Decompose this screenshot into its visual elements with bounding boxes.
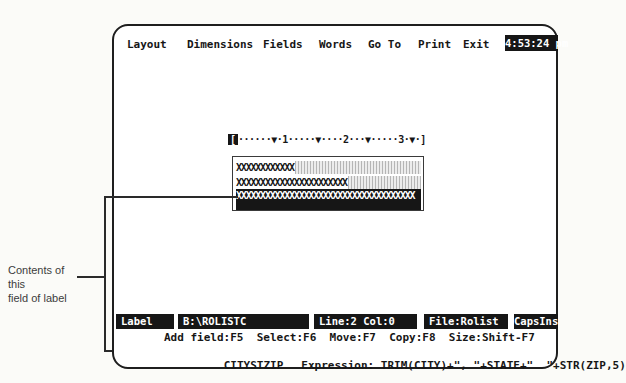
status-keyboard-indicators: CapsIns bbox=[514, 314, 558, 329]
function-key-help-line: Add field:F5 Select:F6 Move:F7 Copy:F8 S… bbox=[164, 331, 535, 344]
ruler-left-margin-marker[interactable]: [ bbox=[228, 134, 238, 145]
annotation-pointer-line bbox=[77, 276, 105, 278]
ruler-tab-stops[interactable]: ······▼·1·····▼····2···▼·····3·▼·] bbox=[238, 134, 426, 145]
field-expression: Expression: TRIM(CITY)+", "+STATE+" "+ST… bbox=[301, 359, 626, 372]
label-field-row-3-selected[interactable]: XXXXXXXXXXXXXXXXXXXXXXXXXXXXXXXXXXXXX bbox=[236, 189, 421, 210]
field-expression-line: CITYSTZIPExpression: TRIM(CITY)+", "+STA… bbox=[184, 346, 626, 383]
menu-item-print[interactable]: Print bbox=[418, 38, 451, 51]
callout-vertical-line bbox=[104, 196, 106, 352]
status-cursor-position: Line:2 Col:0 bbox=[314, 314, 417, 329]
field-extent-hatch-2 bbox=[348, 176, 421, 189]
menu-item-exit[interactable]: Exit bbox=[463, 38, 490, 51]
field-template-3-selected[interactable]: XXXXXXXXXXXXXXXXXXXXXXXXXXXXXXXXXXXXX bbox=[236, 189, 414, 202]
annotation-line2: field of label bbox=[8, 291, 80, 305]
label-design-box: XXXXXXXXXXXX XXXXXXXXXXXXXXXXXXXXXXX XXX… bbox=[232, 156, 424, 211]
field-name: CITYSTZIP bbox=[224, 359, 284, 372]
status-data-file: File:Rolist bbox=[424, 314, 508, 329]
menu-item-goto[interactable]: Go To bbox=[368, 38, 401, 51]
label-field-row-2[interactable]: XXXXXXXXXXXXXXXXXXXXXXX bbox=[236, 175, 421, 189]
figure-annotation: Contents of this field of label bbox=[8, 263, 80, 305]
field-extent-hatch-1 bbox=[295, 161, 421, 174]
label-field-row-1[interactable]: XXXXXXXXXXXX bbox=[236, 159, 421, 175]
ruler-bar: [······▼·1·····▼····2···▼·····3·▼·] bbox=[228, 134, 426, 145]
clock-display: 4:53:24 pm bbox=[505, 35, 558, 51]
menu-item-words[interactable]: Words bbox=[319, 38, 352, 51]
menu-item-fields[interactable]: Fields bbox=[263, 38, 303, 51]
status-bar: Label B:\ROLISTC Line:2 Col:0 File:Rolis… bbox=[114, 314, 560, 329]
field-template-2[interactable]: XXXXXXXXXXXXXXXXXXXXXXX bbox=[236, 177, 347, 188]
field-template-1[interactable]: XXXXXXXXXXXX bbox=[236, 162, 294, 173]
annotation-line1: Contents of this bbox=[8, 263, 80, 291]
menu-item-layout[interactable]: Layout bbox=[127, 38, 167, 51]
status-file-path: B:\ROLISTC bbox=[178, 314, 309, 329]
menu-item-dimensions[interactable]: Dimensions bbox=[187, 38, 253, 51]
callout-line-to-selected-field bbox=[104, 196, 238, 198]
status-mode: Label bbox=[116, 314, 174, 329]
